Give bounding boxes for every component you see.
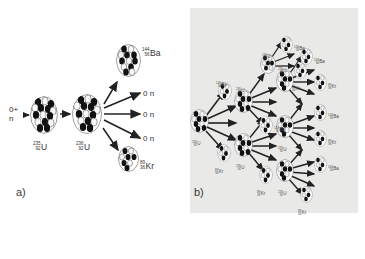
chain-label-gen2-b: 23592U (278, 141, 287, 157)
chain-label-gen2-a: 23592U (278, 62, 287, 78)
chain-fragment-9 (314, 156, 327, 173)
chain-fragment-label-8: 8936Kr (328, 134, 336, 150)
chain-fragment-7 (314, 104, 327, 121)
panel-b-label: b) (194, 186, 204, 198)
chain-label-gen1-upper: 23592U (236, 82, 245, 98)
chain-fragment-label-1: 14456Ba (216, 76, 227, 92)
chain-label-top: 23592U (262, 48, 271, 64)
chain-fragment-11 (280, 36, 293, 53)
fission-figure: 0+ n (0, 0, 365, 259)
chain-fragment-label-6: 8936Kr (328, 78, 336, 94)
chain-fragment-4 (259, 166, 273, 184)
chain-fragment-6 (314, 74, 327, 91)
chain-nucleus-gen2-c (276, 159, 294, 182)
chain-fragment-label-10: 8936Kr (298, 204, 306, 220)
chain-fragment-8 (314, 130, 327, 147)
chain-fragment-3 (259, 116, 273, 134)
chain-fragment-label-11: 14456Ba (294, 40, 305, 56)
chain-fragment-label-7: 14456Ba (328, 108, 339, 124)
chain-fragment-label-12: 8936Kr (292, 80, 300, 96)
panel-b-chain-reaction: 23592U 23592U (190, 8, 358, 213)
chain-fragment-10 (300, 186, 313, 203)
chain-nucleus-gen0 (190, 109, 209, 133)
chain-fragment-label-9: 14456Ba (328, 160, 339, 176)
chain-label-gen2-c: 23592U (278, 185, 287, 201)
chain-label-gen0: 23592U (192, 135, 201, 151)
chain-fragment-2 (217, 144, 231, 162)
chain-fragment-label-3: 14456Ba (274, 121, 285, 137)
chain-label-gen1-lower: 23592U (236, 159, 245, 175)
chain-nucleus-gen1-lower (234, 133, 253, 157)
chain-fragment-label-4: 8936Kr (257, 185, 265, 201)
panel-a-arrows (0, 0, 190, 259)
chain-fragment-label-2: 8936Kr (215, 163, 223, 179)
panel-a-single-fission: 0+ n (0, 0, 190, 259)
panel-a-label: a) (16, 186, 26, 198)
chain-fragment-label-5: 14456Ba (314, 53, 325, 69)
chain-fragment-12 (294, 62, 307, 79)
